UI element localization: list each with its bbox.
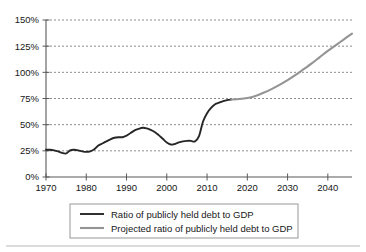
x-tick-label: 2020 xyxy=(237,182,258,193)
series-line-historical xyxy=(46,100,231,154)
x-tick-label: 1970 xyxy=(35,182,56,193)
y-tick-label: 25% xyxy=(20,145,40,156)
x-tick-label: 2010 xyxy=(196,182,217,193)
y-tick-label: 75% xyxy=(20,93,40,104)
tickmarks-group xyxy=(43,20,328,181)
x-axis-tick-labels: 19701980199020002010202020302040 xyxy=(35,182,338,193)
y-tick-label: 50% xyxy=(20,119,40,130)
series-line-projected xyxy=(231,34,352,100)
y-axis-tick-labels: 0%25%50%75%100%125%150% xyxy=(15,14,40,182)
y-tick-label: 125% xyxy=(15,41,40,52)
chart-figure: 0%25%50%75%100%125%150% 1970198019902000… xyxy=(0,0,366,252)
x-tick-label: 1980 xyxy=(76,182,97,193)
y-tick-label: 100% xyxy=(15,67,40,78)
legend: Ratio of publicly held debt to GDP Proje… xyxy=(70,204,298,238)
y-tick-label: 0% xyxy=(25,171,39,182)
y-tick-label: 150% xyxy=(15,14,40,25)
legend-label-projected: Projected ratio of publicly held debt to… xyxy=(111,223,293,234)
x-tick-label: 2000 xyxy=(156,182,177,193)
gridlines-group xyxy=(46,20,352,151)
debt-to-gdp-line-chart: 0%25%50%75%100%125%150% 1970198019902000… xyxy=(0,0,366,252)
x-tick-label: 2030 xyxy=(277,182,298,193)
legend-label-historical: Ratio of publicly held debt to GDP xyxy=(111,209,254,220)
x-tick-label: 1990 xyxy=(116,182,137,193)
x-tick-label: 2040 xyxy=(317,182,338,193)
